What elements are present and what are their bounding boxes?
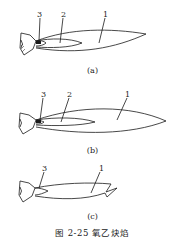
zone-label-2: 2	[67, 91, 72, 99]
zone-label-1: 1	[125, 91, 130, 99]
panel-label-c: (c)	[0, 212, 185, 221]
flame-panel-a: 3 2 1 (a)	[0, 0, 185, 80]
zone-label-3: 3	[42, 165, 47, 173]
panel-label-a: (a)	[0, 66, 185, 75]
zone-label-1: 1	[99, 165, 104, 173]
zone-label-2: 2	[61, 11, 66, 19]
flame-panel-b: 3 2 1 (b)	[0, 80, 185, 160]
flame-panel-c: 3 1 (c)	[0, 160, 185, 226]
zone-label-1: 1	[103, 11, 108, 19]
zone-label-3: 3	[37, 11, 42, 19]
figure-caption: 图 2-25 氧乙炔焰	[0, 226, 185, 238]
zone-label-3: 3	[41, 91, 46, 99]
panel-label-b: (b)	[0, 146, 185, 155]
